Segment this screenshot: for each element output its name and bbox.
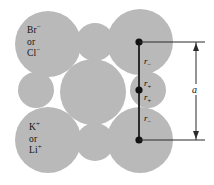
anion-circle-bottom-left (15, 107, 81, 173)
anion-symbol-alt: Cl (27, 48, 36, 58)
radius-label-cation-upper: r+ (144, 78, 151, 88)
anion-label-line-3: Cl− (27, 48, 41, 60)
cation-symbol-alt: Li (29, 145, 38, 155)
lattice-constant-label: a (191, 84, 198, 95)
r-subscript-anion-bottom: − (148, 118, 152, 125)
anion-circle-top-left (15, 11, 81, 77)
dimension-arrow-top (193, 43, 199, 51)
ionic-crystal-diagram: Br− or Cl− K+ or Li+ r− r+ r+ r− a (0, 0, 214, 185)
cation-charge-1: + (36, 120, 40, 128)
cation-charge-2: + (38, 143, 42, 151)
anion-circle-mid-center (60, 59, 126, 125)
radius-label-anion-top: r− (144, 56, 151, 66)
dimension-arrow-bottom (193, 131, 199, 139)
anion-charge-1: − (37, 23, 41, 31)
radius-label-anion-bottom: r− (144, 113, 151, 123)
r-subscript-cation-lower: + (148, 97, 152, 104)
cation-circle-mid-left (18, 72, 54, 108)
anion-species-label: Br− or Cl− (27, 25, 41, 60)
anion-symbol: Br (27, 25, 37, 35)
anion-charge-2: − (36, 46, 40, 54)
anion-label-line-1: Br− (27, 25, 41, 37)
cation-symbol: K (29, 122, 36, 132)
cation-label-line-3: Li+ (29, 145, 42, 157)
cation-species-label: K+ or Li+ (29, 122, 42, 157)
radius-label-cation-lower: r+ (144, 92, 151, 102)
node-dot-middle (135, 86, 142, 93)
r-subscript-anion-top: − (148, 61, 152, 68)
r-subscript-cation-upper: + (148, 83, 152, 90)
cation-label-line-1: K+ (29, 122, 42, 134)
